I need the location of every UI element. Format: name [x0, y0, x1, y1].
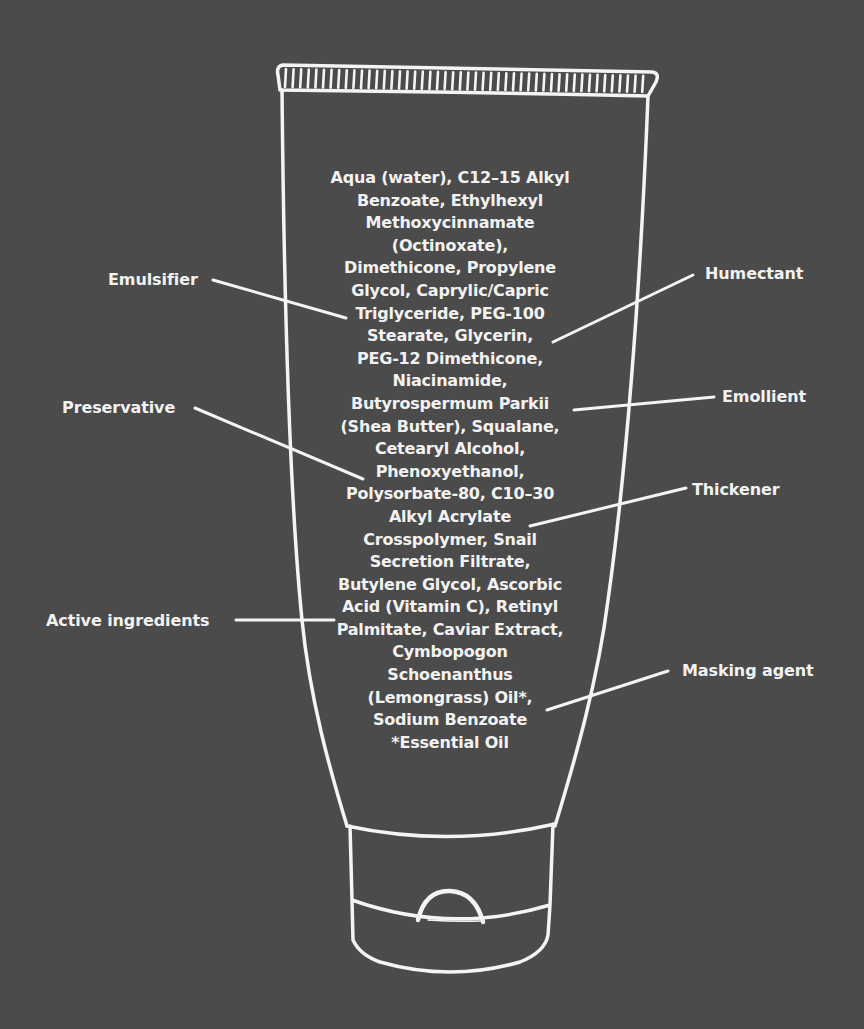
callout-preservative: Preservative: [62, 398, 175, 417]
ingredient-line: Benzoate, Ethylhexyl: [300, 190, 600, 213]
callout-humectant: Humectant: [705, 264, 803, 283]
ingredient-line: Stearate, Glycerin,: [300, 325, 600, 348]
callout-thickener: Thickener: [692, 480, 780, 499]
ingredient-line: (Shea Butter), Squalane,: [300, 416, 600, 439]
tube-crimp-band: [278, 65, 658, 96]
ingredient-line: Schoenanthus: [300, 664, 600, 687]
ingredient-line: Palmitate, Caviar Extract,: [300, 619, 600, 642]
ingredient-line: Cetearyl Alcohol,: [300, 438, 600, 461]
ingredient-line: Alkyl Acrylate: [300, 506, 600, 529]
ingredient-line: *Essential Oil: [300, 732, 600, 755]
ingredient-line: Sodium Benzoate: [300, 709, 600, 732]
ingredient-line: Dimethicone, Propylene: [300, 257, 600, 280]
ingredient-line: Glycol, Caprylic/Capric: [300, 280, 600, 303]
callout-emulsifier: Emulsifier: [108, 270, 198, 289]
ingredient-line: Butyrospermum Parkii: [300, 393, 600, 416]
ingredient-line: Crosspolymer, Snail: [300, 529, 600, 552]
ingredient-line: PEG-12 Dimethicone,: [300, 348, 600, 371]
ingredient-line: Acid (Vitamin C), Retinyl: [300, 596, 600, 619]
ingredient-diagram: Aqua (water), C12–15 Alkyl Benzoate, Eth…: [0, 0, 864, 1029]
ingredient-line: (Octinoxate),: [300, 235, 600, 258]
callout-masking-agent: Masking agent: [682, 661, 814, 680]
ingredient-line: Secretion Filtrate,: [300, 551, 600, 574]
ingredient-line: Niacinamide,: [300, 370, 600, 393]
ingredient-line: Cymbopogon: [300, 641, 600, 664]
callout-emollient: Emollient: [722, 387, 806, 406]
ingredient-line: Polysorbate-80, C10–30: [300, 483, 600, 506]
ingredient-line: Methoxycinnamate: [300, 212, 600, 235]
tube-cap-outline: [347, 824, 555, 972]
callout-active-ingredients: Active ingredients: [46, 611, 209, 630]
ingredient-line: Triglyceride, PEG-100: [300, 303, 600, 326]
ingredient-line: Butylene Glycol, Ascorbic: [300, 574, 600, 597]
ingredient-line: Phenoxyethanol,: [300, 461, 600, 484]
ingredient-line: (Lemongrass) Oil*,: [300, 687, 600, 710]
ingredient-list: Aqua (water), C12–15 Alkyl Benzoate, Eth…: [300, 167, 600, 754]
ingredient-line: Aqua (water), C12–15 Alkyl: [300, 167, 600, 190]
